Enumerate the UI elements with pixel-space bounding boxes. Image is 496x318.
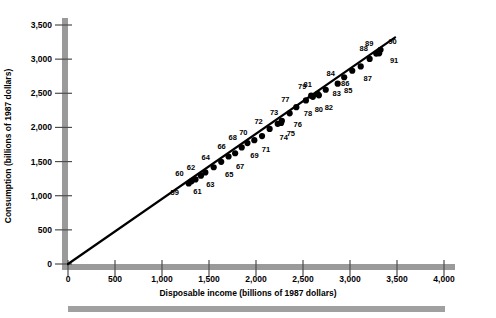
data-point bbox=[323, 87, 329, 93]
x-tick-label: 3,500 bbox=[386, 274, 407, 284]
data-point bbox=[358, 63, 364, 69]
data-point bbox=[287, 110, 293, 116]
data-point bbox=[232, 150, 238, 156]
data-point bbox=[367, 56, 373, 62]
data-point bbox=[267, 126, 273, 132]
x-tick-label: 1,000 bbox=[151, 274, 172, 284]
x-tick-label: 3,000 bbox=[339, 274, 360, 284]
plot-area bbox=[0, 0, 496, 318]
data-point-label: 59 bbox=[171, 188, 179, 197]
data-point-label: 89 bbox=[365, 38, 373, 47]
data-point bbox=[239, 144, 245, 150]
data-point-label: 77 bbox=[281, 95, 289, 104]
data-point-label: 73 bbox=[270, 107, 278, 116]
y-tick-label: 500 bbox=[0, 225, 52, 235]
data-point-label: 67 bbox=[236, 162, 244, 171]
data-point bbox=[244, 140, 250, 146]
x-tick-label: 2,000 bbox=[245, 274, 266, 284]
y-axis-bar bbox=[62, 18, 68, 270]
data-point-label: 72 bbox=[254, 116, 262, 125]
data-point bbox=[303, 97, 309, 103]
data-point bbox=[202, 169, 208, 175]
data-point bbox=[225, 153, 231, 159]
x-axis-bar bbox=[62, 264, 455, 270]
data-point-label: 69 bbox=[250, 151, 258, 160]
data-point-label: 78 bbox=[304, 109, 312, 118]
data-point-label: 70 bbox=[239, 128, 247, 137]
x-axis-title: Disposable income (billions of 1987 doll… bbox=[159, 288, 336, 298]
data-point-label: 71 bbox=[262, 145, 270, 154]
data-point-label: 60 bbox=[175, 169, 183, 178]
x-tick-label: 4,000 bbox=[433, 274, 454, 284]
data-point bbox=[376, 50, 382, 56]
data-point bbox=[192, 176, 198, 182]
data-point-label: 80 bbox=[315, 104, 323, 113]
data-point-label: 76 bbox=[293, 120, 301, 129]
data-point bbox=[251, 137, 257, 143]
data-point-label: 62 bbox=[187, 162, 195, 171]
data-point-label: 66 bbox=[217, 141, 225, 150]
data-point-label: 81 bbox=[303, 79, 311, 88]
data-point bbox=[335, 81, 341, 87]
data-point-label: 63 bbox=[206, 180, 214, 189]
x-tick-label: 0 bbox=[66, 274, 71, 284]
y-tick-label: 3,000 bbox=[0, 54, 52, 64]
data-point bbox=[218, 159, 224, 165]
data-point bbox=[316, 92, 322, 98]
y-tick-label: 3,500 bbox=[0, 20, 52, 30]
data-point-label: 91 bbox=[390, 56, 398, 65]
data-point-label: 65 bbox=[225, 169, 233, 178]
data-point bbox=[293, 104, 299, 110]
y-tick-label: 0 bbox=[0, 259, 52, 269]
data-point bbox=[279, 118, 285, 124]
data-point bbox=[349, 68, 355, 74]
data-point-label: 75 bbox=[287, 128, 295, 137]
data-point-label: 83 bbox=[333, 88, 341, 97]
data-point-label: 90 bbox=[388, 36, 396, 45]
data-points bbox=[186, 47, 384, 187]
data-point-label: 64 bbox=[202, 153, 210, 162]
data-point-label: 86 bbox=[341, 78, 349, 87]
data-point bbox=[211, 164, 217, 170]
decorative-bar bbox=[68, 306, 445, 312]
data-point-label: 82 bbox=[325, 103, 333, 112]
x-tick-label: 1,500 bbox=[198, 274, 219, 284]
data-point-label: 87 bbox=[364, 74, 372, 83]
data-point-label: 68 bbox=[229, 133, 237, 142]
y-axis-title: Consumption (billions of 1987 dollars) bbox=[3, 69, 13, 223]
chart-figure: 05001,0001,5002,0002,5003,0003,500 05001… bbox=[0, 0, 496, 318]
data-point-label: 84 bbox=[327, 68, 335, 77]
data-point-label: 61 bbox=[193, 187, 201, 196]
x-tick-label: 500 bbox=[108, 274, 122, 284]
trendline bbox=[68, 37, 395, 264]
x-tick-label: 2,500 bbox=[292, 274, 313, 284]
data-point bbox=[259, 133, 265, 139]
